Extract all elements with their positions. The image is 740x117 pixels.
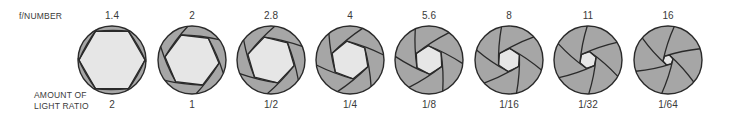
aperture-iris-icon — [554, 26, 622, 94]
aperture-iris-icon — [158, 26, 226, 94]
aperture-diagrams — [0, 0, 740, 117]
aperture-iris-icon — [316, 26, 384, 94]
aperture-iris-icon — [78, 26, 146, 94]
aperture-iris-icon — [475, 26, 543, 94]
aperture-iris-icon — [237, 26, 305, 94]
aperture-iris-icon — [634, 26, 702, 94]
aperture-iris-icon — [395, 26, 463, 94]
